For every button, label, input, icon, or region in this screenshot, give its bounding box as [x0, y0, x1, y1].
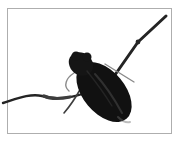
screenshot-root: [0, 0, 180, 145]
leg-hind-right-knee: [136, 40, 141, 45]
insect-photo: [0, 0, 180, 145]
insect-eye-right: [83, 53, 92, 62]
insect-photo-svg: [0, 0, 180, 145]
insect-eye-left: [72, 52, 81, 61]
